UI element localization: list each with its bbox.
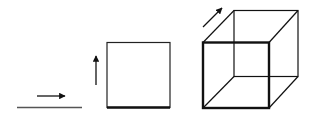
cube-edge [203,77,234,109]
diagram-canvas [0,0,319,120]
cube-edge [269,11,298,43]
stage-line-segment [17,96,82,108]
square [107,43,170,108]
dimension-diagram [0,0,319,120]
cube-edge [269,77,298,109]
stage-square [96,43,170,108]
cube-edge [203,11,234,43]
arrow-diagonal-icon [203,8,222,27]
stage-cube [203,8,298,108]
